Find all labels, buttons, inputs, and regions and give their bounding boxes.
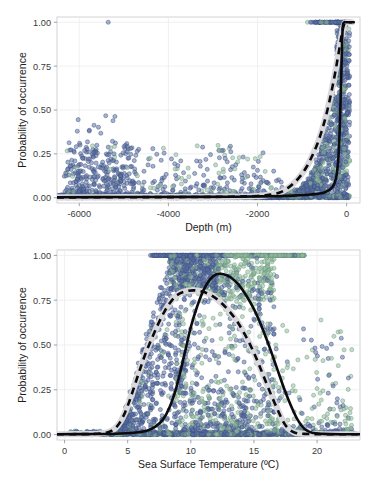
depth-panel: -6000-4000-200000.000.250.500.751.00Dept… [0,0,381,244]
x-axis-title: Sea Surface Temperature (ºC) [138,458,279,470]
x-tick-label: -4000 [157,209,181,219]
y-axis-title: Probability of occurrence [16,52,28,168]
x-axis-title: Depth (m) [185,221,232,233]
x-tick-label: 15 [249,446,259,456]
x-tick-label: -2000 [246,209,270,219]
y-tick-label: 0.50 [33,105,51,115]
y-tick-label: 0.50 [33,340,51,350]
y-tick-label: 0.00 [33,430,51,440]
y-tick-label: 0.25 [33,149,51,159]
y-tick-label: 0.25 [33,385,51,395]
x-tick-label: 0 [344,209,349,219]
y-tick-label: 1.00 [33,18,51,28]
x-tick-label: -6000 [68,209,92,219]
sst-panel: 051015200.000.250.500.751.00Sea Surface … [0,244,381,488]
x-tick-label: 10 [186,446,196,456]
y-tick-label: 0.00 [33,193,51,203]
x-tick-label: 0 [62,446,67,456]
x-tick-label: 5 [125,446,130,456]
depth-plot-svg: -6000-4000-200000.000.250.500.751.00Dept… [0,0,381,244]
sst-plot-svg: 051015200.000.250.500.751.00Sea Surface … [0,244,381,488]
y-tick-label: 1.00 [33,251,51,261]
x-tick-label: 20 [312,446,322,456]
y-tick-label: 0.75 [33,296,51,306]
y-tick-label: 0.75 [33,62,51,72]
y-axis-title: Probability of occurrence [16,287,28,403]
